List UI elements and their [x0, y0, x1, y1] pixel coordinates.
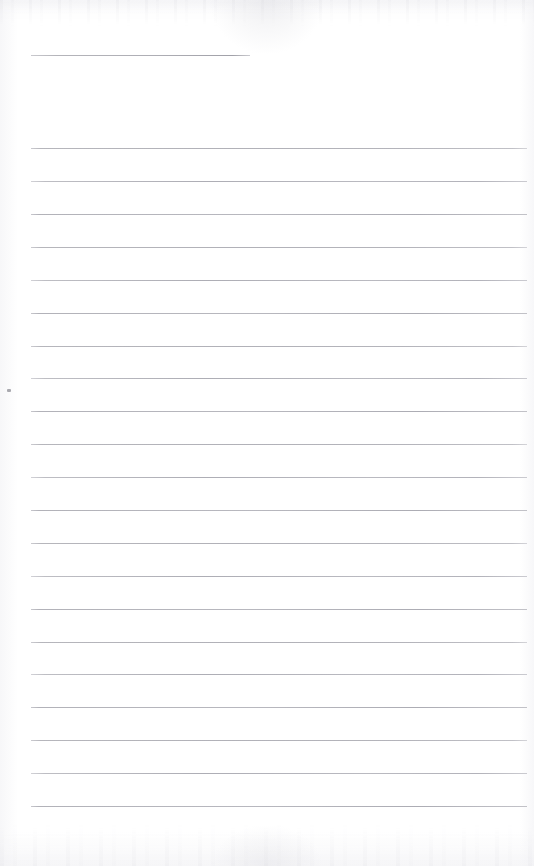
scan-noise-top — [0, 0, 534, 26]
ruled-line-17[interactable] — [31, 674, 527, 675]
ruled-line-20[interactable] — [31, 773, 527, 774]
ruled-line-12[interactable] — [31, 510, 527, 511]
ruled-line-10[interactable] — [31, 444, 527, 445]
ruled-line-18[interactable] — [31, 707, 527, 708]
ink-speck — [7, 389, 11, 392]
ruled-line-19[interactable] — [31, 740, 527, 741]
ruled-line-16[interactable] — [31, 642, 527, 643]
ruled-line-9[interactable] — [31, 411, 527, 412]
ruled-line-14[interactable] — [31, 576, 527, 577]
ruled-line-2[interactable] — [31, 181, 527, 182]
ruled-line-13[interactable] — [31, 543, 527, 544]
notepad-page — [0, 0, 534, 866]
ruled-line-4[interactable] — [31, 247, 527, 248]
title-rule[interactable] — [31, 55, 250, 56]
ruled-line-7[interactable] — [31, 346, 527, 347]
ruled-line-3[interactable] — [31, 214, 527, 215]
ruled-line-1[interactable] — [31, 148, 527, 149]
ruled-line-5[interactable] — [31, 280, 527, 281]
ruled-line-21[interactable] — [31, 806, 527, 807]
ruled-line-6[interactable] — [31, 313, 527, 314]
ruled-line-15[interactable] — [31, 609, 527, 610]
paper-texture — [0, 0, 534, 866]
ruled-line-8[interactable] — [31, 378, 527, 379]
ruled-line-11[interactable] — [31, 477, 527, 478]
scan-noise-bottom — [0, 824, 534, 866]
